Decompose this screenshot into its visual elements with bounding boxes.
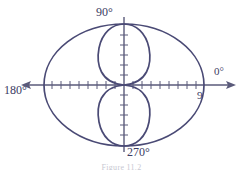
polar-figure: 90° 180° 0° 270° 9 Figure 11.2: [0, 0, 243, 170]
axis-label-0-degrees: 0°: [214, 66, 224, 77]
axis-label-270-degrees: 270°: [127, 146, 150, 158]
axis-label-180-degrees: 180°: [4, 84, 27, 96]
radial-axis-label-9: 9: [197, 90, 203, 101]
figure-caption: Figure 11.2: [0, 163, 243, 170]
polar-plot-canvas: [0, 0, 243, 170]
axis-label-90-degrees: 90°: [96, 6, 113, 18]
